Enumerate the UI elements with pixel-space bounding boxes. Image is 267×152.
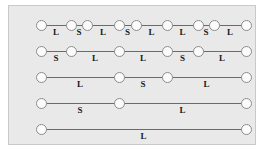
segment-label: L bbox=[100, 27, 106, 38]
node-circle bbox=[162, 46, 173, 57]
node-circle bbox=[114, 72, 125, 83]
edge-segment bbox=[41, 103, 119, 104]
node-circle bbox=[36, 20, 47, 31]
diagram-row: LSLSLLSL bbox=[9, 13, 255, 39]
segment-label: S bbox=[76, 27, 81, 38]
node-circle bbox=[36, 72, 47, 83]
segment-label: L bbox=[53, 27, 59, 38]
edge-segment bbox=[71, 51, 119, 52]
node-circle bbox=[162, 72, 173, 83]
node-circle bbox=[209, 20, 220, 31]
segment-label: S bbox=[77, 105, 82, 116]
segment-label: L bbox=[219, 53, 225, 64]
node-circle bbox=[82, 20, 93, 31]
node-circle bbox=[241, 72, 252, 83]
node-circle bbox=[114, 20, 125, 31]
figure-panel: LSLSLLSLSLLSLLSLSLL bbox=[8, 5, 256, 145]
segment-label: S bbox=[125, 27, 130, 38]
node-circle bbox=[241, 20, 252, 31]
node-circle bbox=[241, 46, 252, 57]
edge-segment bbox=[119, 103, 246, 104]
node-circle bbox=[193, 20, 204, 31]
diagram-row: L bbox=[9, 117, 255, 143]
edge-segment bbox=[119, 77, 167, 78]
node-circle bbox=[66, 20, 77, 31]
node-circle bbox=[36, 124, 47, 135]
diagram-row: SLLSL bbox=[9, 39, 255, 65]
edge-segment bbox=[198, 51, 246, 52]
node-circle bbox=[193, 46, 204, 57]
segment-label: L bbox=[77, 79, 83, 90]
segment-label: L bbox=[148, 27, 154, 38]
segment-label: L bbox=[227, 27, 233, 38]
segment-label: S bbox=[53, 53, 58, 64]
node-circle bbox=[114, 98, 125, 109]
segment-label: L bbox=[179, 105, 185, 116]
node-circle bbox=[66, 46, 77, 57]
edge-segment bbox=[167, 77, 246, 78]
diagram-row: SL bbox=[9, 91, 255, 117]
segment-label: S bbox=[180, 53, 185, 64]
edge-segment bbox=[119, 51, 167, 52]
segment-label: L bbox=[140, 53, 146, 64]
segment-label: L bbox=[203, 79, 209, 90]
node-circle bbox=[241, 124, 252, 135]
segment-label: S bbox=[140, 79, 145, 90]
segment-label: L bbox=[92, 53, 98, 64]
node-circle bbox=[114, 46, 125, 57]
node-circle bbox=[131, 20, 142, 31]
node-circle bbox=[162, 20, 173, 31]
segment-label: L bbox=[140, 131, 146, 142]
edge-segment bbox=[41, 77, 119, 78]
segment-label: L bbox=[179, 27, 185, 38]
edge-segment bbox=[41, 129, 246, 130]
segment-label: S bbox=[203, 27, 208, 38]
node-circle bbox=[36, 46, 47, 57]
node-circle bbox=[36, 98, 47, 109]
node-circle bbox=[241, 98, 252, 109]
diagram-row: LSL bbox=[9, 65, 255, 91]
